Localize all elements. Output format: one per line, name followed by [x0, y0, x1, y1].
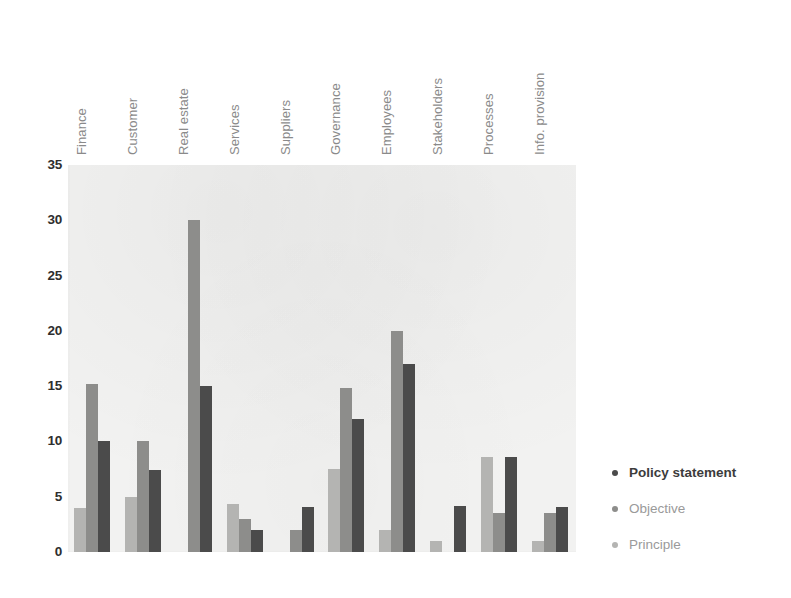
legend-swatch-icon	[612, 470, 618, 476]
bar-services-policy-statement	[251, 530, 263, 552]
x-axis-label-customer: Customer	[126, 98, 139, 155]
y-axis-tick-25: 25	[22, 269, 62, 283]
bar-employees-policy-statement	[403, 364, 415, 552]
legend-item-label: Principle	[629, 538, 681, 552]
bar-finance-policy-statement	[98, 441, 110, 552]
legend-swatch-icon	[612, 506, 618, 512]
y-axis-tick-35: 35	[22, 158, 62, 172]
bar-employees-principle	[379, 530, 391, 552]
bar-suppliers-policy-statement	[302, 507, 314, 552]
bar-customer-objective	[137, 441, 149, 552]
legend-item-objective[interactable]: Objective	[612, 491, 787, 527]
x-axis-label-finance: Finance	[75, 108, 88, 155]
bar-services-objective	[239, 519, 251, 552]
bar-processes-principle	[481, 457, 493, 552]
x-axis-category-labels: FinanceCustomerReal estateServicesSuppli…	[68, 0, 576, 165]
bar-finance-objective	[86, 384, 98, 552]
y-axis-tick-0: 0	[22, 545, 62, 559]
bar-processes-policy-statement	[505, 457, 517, 552]
x-axis-label-governance: Governance	[329, 83, 342, 155]
x-axis-label-info-provision: Info. provision	[533, 73, 546, 155]
x-axis-label-stakeholders: Stakeholders	[431, 78, 444, 155]
y-axis-tick-5: 5	[22, 490, 62, 504]
legend-item-label: Objective	[629, 502, 685, 516]
x-axis-label-suppliers: Suppliers	[279, 100, 292, 155]
bar-services-principle	[227, 504, 239, 552]
y-axis-tick-30: 30	[22, 214, 62, 228]
y-axis-tick-10: 10	[22, 435, 62, 449]
bar-info-provision-principle	[532, 541, 544, 552]
legend-item-policy-statement[interactable]: Policy statement	[612, 455, 787, 491]
x-axis-label-employees: Employees	[380, 90, 393, 155]
legend-item-principle[interactable]: Principle	[612, 527, 787, 563]
bar-real-estate-objective	[188, 220, 200, 552]
bar-governance-policy-statement	[352, 419, 364, 552]
bars-layer	[68, 165, 576, 552]
bar-info-provision-objective	[544, 513, 556, 552]
bar-processes-objective	[493, 513, 505, 552]
y-axis-tick-15: 15	[22, 379, 62, 393]
legend-item-label: Policy statement	[629, 466, 736, 480]
bar-suppliers-objective	[290, 530, 302, 552]
x-axis-label-services: Services	[228, 104, 241, 155]
bar-customer-principle	[125, 497, 137, 552]
bar-finance-principle	[74, 508, 86, 552]
y-axis: 05101520253035	[18, 0, 62, 598]
bar-chart: 05101520253035 FinanceCustomerReal estat…	[0, 0, 791, 598]
bar-employees-objective	[391, 331, 403, 552]
chart-legend: Policy statementObjectivePrinciple	[612, 455, 787, 563]
bar-stakeholders-principle	[430, 541, 442, 552]
x-axis-label-real-estate: Real estate	[177, 88, 190, 155]
bar-customer-policy-statement	[149, 470, 161, 552]
bar-governance-principle	[328, 469, 340, 552]
x-axis-label-processes: Processes	[482, 93, 495, 155]
bar-stakeholders-policy-statement	[454, 506, 466, 552]
legend-swatch-icon	[612, 542, 618, 548]
bar-info-provision-policy-statement	[556, 507, 568, 552]
bar-real-estate-policy-statement	[200, 386, 212, 552]
y-axis-tick-20: 20	[22, 324, 62, 338]
bar-governance-objective	[340, 388, 352, 552]
